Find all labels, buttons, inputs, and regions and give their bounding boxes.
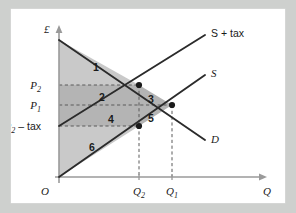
x-axis-label: Q xyxy=(263,185,271,197)
x-axis-arrow xyxy=(259,174,267,181)
region-1-shape xyxy=(59,40,139,85)
figure-panel: 1 2 3 4 5 6 S + tax S D £ Q O P2 P1 xyxy=(11,9,285,203)
region-3-label: 3 xyxy=(148,93,154,105)
y-axis-label: £ xyxy=(44,23,50,35)
curve-labels: S + tax S D xyxy=(210,27,245,145)
point-post-tax-equilibrium xyxy=(136,82,142,88)
region-6-label: 6 xyxy=(89,141,95,153)
price-label-p2-sub: 2 xyxy=(37,85,41,94)
region-5-label: 5 xyxy=(148,112,154,124)
region-2-label: 2 xyxy=(99,91,105,103)
supply-demand-tax-diagram: 1 2 3 4 5 6 S + tax S D £ Q O P2 P1 xyxy=(11,9,285,203)
curve-label-demand: D xyxy=(210,133,219,145)
region-4-label: 4 xyxy=(108,113,114,125)
quantity-label-q1-main: Q xyxy=(166,185,174,197)
price-label-p2-tax: P2 – tax xyxy=(11,120,42,135)
quantity-label-q1-sub: 1 xyxy=(174,191,178,200)
region-5-shape xyxy=(139,105,172,126)
region-1-label: 1 xyxy=(93,61,99,73)
curve-label-supply: S xyxy=(211,67,217,79)
origin-label: O xyxy=(41,185,49,197)
quantity-label-q2-main: Q xyxy=(133,185,141,197)
region-4-shape xyxy=(59,105,139,126)
quantity-tick-labels: Q2 Q1 xyxy=(133,185,178,200)
point-pre-tax-equilibrium xyxy=(169,102,175,108)
price-label-p2-tax-suffix: – tax xyxy=(15,120,41,132)
quantity-label-q2-sub: 2 xyxy=(141,191,145,200)
quantity-label-q1: Q1 xyxy=(166,185,178,200)
point-producer-net-price xyxy=(136,123,142,129)
shaded-regions xyxy=(59,40,172,177)
price-label-p1-sub: 1 xyxy=(37,105,41,114)
y-axis-arrow xyxy=(56,25,63,33)
quantity-label-q2: Q2 xyxy=(133,185,145,200)
price-tick-labels: P2 P1 P2 – tax xyxy=(11,79,42,135)
curve-label-supply-plus-tax: S + tax xyxy=(211,27,245,39)
price-label-p2: P2 xyxy=(29,79,41,94)
price-label-p1: P1 xyxy=(29,99,41,114)
